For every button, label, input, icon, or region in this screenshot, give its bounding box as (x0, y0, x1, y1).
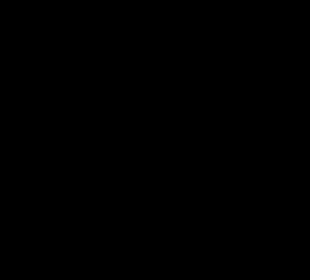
panel-dense-point-cloud (10, 2, 160, 134)
panel-smooth-curve-bottom (188, 144, 306, 278)
arrow-right-top (142, 26, 190, 48)
figure-root (0, 0, 310, 280)
arrow-right-bottom (142, 166, 190, 188)
panel-sparse-control-points (10, 144, 160, 278)
panel-smooth-curve-top (188, 2, 306, 134)
